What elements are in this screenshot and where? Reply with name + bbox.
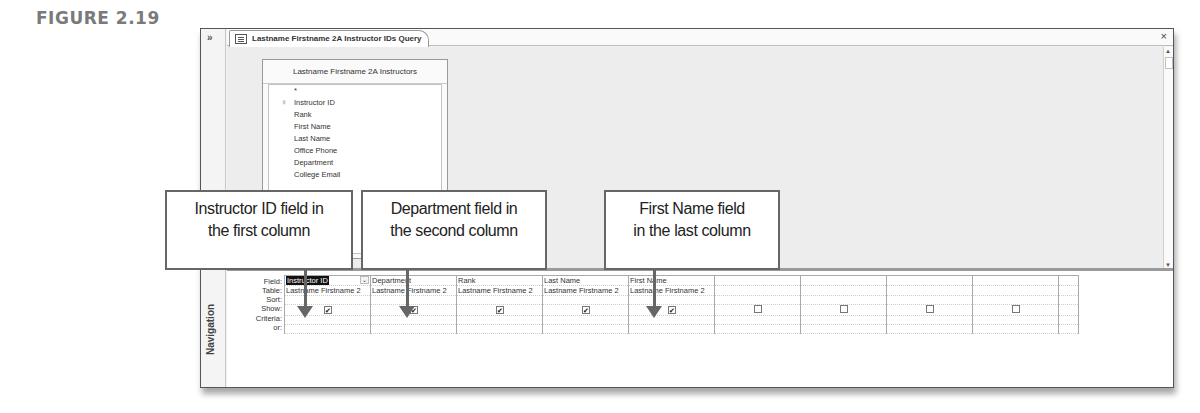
field-cell[interactable]: Last Name xyxy=(543,276,629,286)
close-icon[interactable]: × xyxy=(1161,30,1167,42)
table-cell[interactable] xyxy=(887,286,973,296)
field-label: Instructor ID xyxy=(294,98,335,107)
show-checkbox-checked[interactable]: ✔ xyxy=(324,306,332,314)
field-item-department[interactable]: Department xyxy=(269,157,441,169)
sort-cell[interactable] xyxy=(285,296,371,305)
or-cell[interactable] xyxy=(457,325,543,334)
criteria-cell[interactable] xyxy=(629,316,715,325)
criteria-cell[interactable] xyxy=(887,316,973,325)
field-cell[interactable]: First Name xyxy=(629,276,715,286)
sort-cell[interactable] xyxy=(715,296,801,305)
or-cell[interactable] xyxy=(1059,325,1079,334)
show-checkbox-unchecked[interactable] xyxy=(1012,305,1020,313)
sort-cell[interactable] xyxy=(457,296,543,305)
field-cell[interactable] xyxy=(887,276,973,286)
or-cell[interactable] xyxy=(543,325,629,334)
arrow-down-icon xyxy=(646,306,662,318)
criteria-cell[interactable] xyxy=(457,316,543,325)
scroll-thumb[interactable] xyxy=(1165,57,1173,69)
field-cell[interactable] xyxy=(801,276,887,286)
show-cell: ✔ xyxy=(629,305,715,316)
show-checkbox-unchecked[interactable] xyxy=(840,305,848,313)
criteria-cell[interactable] xyxy=(543,316,629,325)
show-checkbox-unchecked[interactable] xyxy=(926,305,934,313)
or-cell[interactable] xyxy=(629,325,715,334)
table-cell[interactable]: Lastname Firstname 2 xyxy=(629,286,715,296)
sort-cell[interactable] xyxy=(629,296,715,305)
field-value-selected[interactable]: Instructor ID xyxy=(286,276,329,285)
callout-first-name: First Name field in the last column xyxy=(604,190,780,270)
field-item-all[interactable]: * xyxy=(269,85,441,97)
field-label: * xyxy=(294,86,297,95)
show-cell: ✔ xyxy=(543,305,629,316)
row-label-or: or: xyxy=(227,323,283,332)
field-label: First Name xyxy=(294,122,331,131)
field-cell[interactable] xyxy=(715,276,801,286)
or-cell[interactable] xyxy=(887,325,973,334)
criteria-cell[interactable] xyxy=(715,316,801,325)
show-checkbox-checked[interactable]: ✔ xyxy=(668,306,676,314)
sort-cell[interactable] xyxy=(371,296,457,305)
table-cell[interactable]: Lastname Firstname 2 xyxy=(543,286,629,296)
field-item-office-phone[interactable]: Office Phone xyxy=(269,145,441,157)
field-label: Office Phone xyxy=(294,146,337,155)
field-item-last-name[interactable]: Last Name xyxy=(269,133,441,145)
row-label-criteria: Criteria: xyxy=(227,314,283,323)
scroll-up-icon[interactable]: ▲ xyxy=(1165,48,1171,54)
figure-label: FIGURE 2.19 xyxy=(36,8,160,28)
expand-nav-icon[interactable]: » xyxy=(207,32,213,43)
sort-cell[interactable] xyxy=(801,296,887,305)
field-item-rank[interactable]: Rank xyxy=(269,109,441,121)
show-cell xyxy=(887,305,973,316)
criteria-cell[interactable] xyxy=(973,316,1059,325)
field-item-college-email[interactable]: College Email xyxy=(269,169,441,181)
show-checkbox-checked[interactable]: ✔ xyxy=(496,306,504,314)
query-design-grid: Field: Table: Sort: Show: Criteria: or: … xyxy=(227,271,1173,387)
table-cell[interactable] xyxy=(973,286,1059,296)
field-cell[interactable] xyxy=(973,276,1059,286)
table-cell[interactable]: Lastname Firstname 2 xyxy=(457,286,543,296)
sort-cell[interactable] xyxy=(887,296,973,305)
or-cell[interactable] xyxy=(715,325,801,334)
sort-cell[interactable] xyxy=(973,296,1059,305)
field-cell[interactable]: Rank xyxy=(457,276,543,286)
navigation-pane-label[interactable]: Navigation xyxy=(205,304,216,355)
or-cell[interactable] xyxy=(285,325,371,334)
or-cell[interactable] xyxy=(371,325,457,334)
query-icon xyxy=(235,34,247,44)
callout-line: Department field in xyxy=(363,198,545,220)
tab-instructor-ids-query[interactable]: Lastname Firstname 2A Instructor IDs Que… xyxy=(229,30,429,47)
document-tab-bar: Lastname Firstname 2A Instructor IDs Que… xyxy=(227,29,1173,46)
field-label: Department xyxy=(294,158,333,167)
callout-instructor-id: Instructor ID field in the first column xyxy=(165,190,353,270)
field-cell[interactable]: Instructor ID⌄ xyxy=(285,276,371,286)
show-checkbox-unchecked[interactable] xyxy=(754,305,762,313)
or-cell[interactable] xyxy=(801,325,887,334)
callout-line: First Name field xyxy=(606,198,778,220)
sort-cell[interactable] xyxy=(543,296,629,305)
dropdown-arrow-icon[interactable]: ⌄ xyxy=(360,276,369,284)
row-label-sort: Sort: xyxy=(227,295,283,304)
show-cell: ✔ xyxy=(457,305,543,316)
field-list-title[interactable]: Lastname Firstname 2A Instructors xyxy=(263,60,447,84)
vertical-scrollbar[interactable]: ▲ ▼ xyxy=(1163,47,1173,269)
show-cell xyxy=(801,305,887,316)
table-cell[interactable] xyxy=(715,286,801,296)
sort-cell[interactable] xyxy=(1059,296,1079,305)
criteria-cell[interactable] xyxy=(801,316,887,325)
callout-line: the first column xyxy=(167,220,351,242)
table-cell[interactable] xyxy=(801,286,887,296)
or-cell[interactable] xyxy=(973,325,1059,334)
field-item-first-name[interactable]: First Name xyxy=(269,121,441,133)
table-cell[interactable] xyxy=(1059,286,1079,296)
field-cell[interactable] xyxy=(1059,276,1079,286)
show-checkbox-checked[interactable]: ✔ xyxy=(582,306,590,314)
callout-line: the second column xyxy=(363,220,545,242)
arrow-down-icon xyxy=(297,306,313,318)
grid-row-sort xyxy=(285,296,1079,305)
criteria-cell[interactable] xyxy=(1059,316,1079,325)
table-cell[interactable]: Lastname Firstname 2 xyxy=(371,286,457,296)
field-cell[interactable]: Department xyxy=(371,276,457,286)
field-item-instructor-id[interactable]: ♀Instructor ID xyxy=(269,97,441,109)
table-cell[interactable]: Lastname Firstname 2 xyxy=(285,286,371,296)
